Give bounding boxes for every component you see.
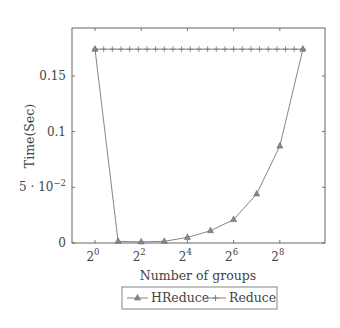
triangle-marker-icon <box>277 143 283 149</box>
y-tick-label: 0 <box>58 236 66 250</box>
plus-marker-icon <box>205 46 211 52</box>
line-chart: 05 · 10−20.10.15 2022242628 Time(Sec) Nu… <box>0 0 340 328</box>
triangle-marker-icon <box>254 190 260 196</box>
plus-marker-icon <box>187 46 193 52</box>
plus-marker-icon <box>239 46 245 52</box>
plus-marker-icon <box>153 46 159 52</box>
x-tick-label: 26 <box>225 247 238 264</box>
x-tick-label: 28 <box>271 247 284 264</box>
plot-area-border <box>72 28 325 243</box>
plus-marker-icon <box>291 46 297 52</box>
plus-marker-icon <box>118 46 124 52</box>
plus-marker-icon <box>101 46 107 52</box>
plus-marker-icon <box>127 46 133 52</box>
plus-marker-icon <box>109 46 115 52</box>
plus-marker-icon <box>265 46 271 52</box>
y-axis-title: Time(Sec) <box>22 104 37 168</box>
plus-marker-icon <box>179 46 185 52</box>
legend-label-reduce: Reduce <box>229 290 276 305</box>
triangle-marker-icon <box>138 238 144 244</box>
triangle-marker-icon <box>115 238 121 244</box>
plus-marker-icon <box>248 46 254 52</box>
x-tick-label: 20 <box>86 247 99 264</box>
legend-label-hreduce: HReduce <box>151 290 209 305</box>
x-axis-title: Number of groups <box>140 268 256 283</box>
series-hreduce <box>92 46 306 244</box>
plus-marker-icon <box>283 46 289 52</box>
y-tick-label: 0.15 <box>39 69 66 83</box>
x-tick-label: 24 <box>179 247 192 264</box>
y-tick-label: 0.1 <box>47 125 66 139</box>
plus-marker-icon <box>274 46 280 52</box>
x-tick-label: 22 <box>133 247 146 264</box>
plus-marker-icon <box>196 46 202 52</box>
y-axis-ticks: 05 · 10−20.10.15 <box>19 69 325 250</box>
plus-marker-icon <box>231 46 237 52</box>
plot-frame <box>72 28 325 243</box>
plus-marker-icon <box>144 46 150 52</box>
plus-marker-icon <box>213 46 219 52</box>
plus-marker-icon <box>257 46 263 52</box>
plus-marker-icon <box>170 46 176 52</box>
legend: HReduce Reduce <box>122 287 277 309</box>
series-layer <box>92 46 306 244</box>
plus-marker-icon <box>135 46 141 52</box>
triangle-marker-icon <box>92 46 98 52</box>
plus-marker-icon <box>222 46 228 52</box>
y-tick-label: 5 · 10−2 <box>19 178 66 194</box>
series-reduce <box>92 46 306 52</box>
plus-marker-icon <box>161 46 167 52</box>
triangle-marker-icon <box>300 46 306 52</box>
